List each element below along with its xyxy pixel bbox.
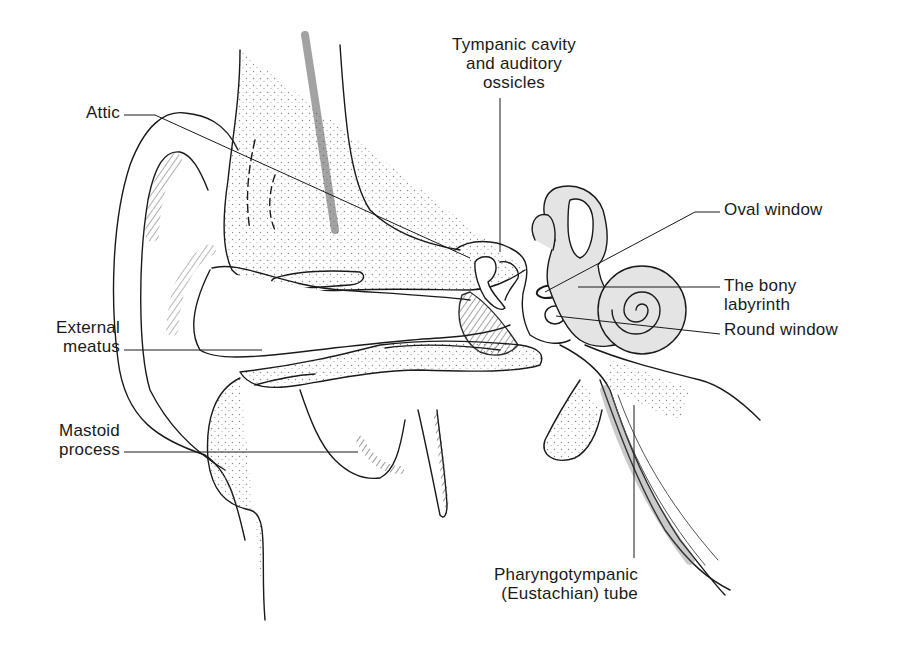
label-line: process [20,440,120,459]
label-attic: Attic [40,103,120,122]
label-line: Attic [40,103,120,122]
mastoid-process [207,378,265,620]
label-line: Round window [724,320,838,339]
label-line: Mastoid [20,421,120,440]
label-line: and auditory [420,54,608,73]
label-line: ossicles [420,73,608,92]
label-line: meatus [20,337,120,356]
cochlea [598,266,686,354]
label-line: (Eustachian) tube [440,584,638,603]
label-line: The bony [724,276,796,295]
label-round-window: Round window [724,320,838,339]
label-line: labyrinth [724,295,796,314]
label-eustachian-tube: Pharyngotympanic (Eustachian) tube [440,565,638,603]
label-line: Oval window [724,200,823,219]
label-line: External [20,318,120,337]
label-bony-labyrinth: The bony labyrinth [724,276,796,314]
label-tympanic-cavity: Tympanic cavity and auditory ossicles [420,35,608,92]
label-oval-window: Oval window [724,200,823,219]
label-external-meatus: External meatus [20,318,120,356]
label-line: Pharyngotympanic [440,565,638,584]
label-line: Tympanic cavity [420,35,608,54]
label-mastoid-process: Mastoid process [20,421,120,459]
